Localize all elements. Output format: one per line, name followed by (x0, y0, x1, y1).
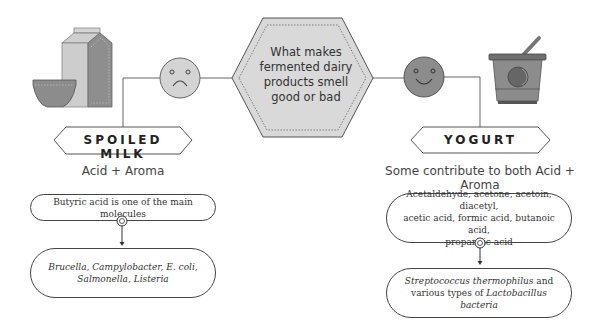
spoiled-molecules-box: Butyric acid is one of the main molecule… (30, 194, 216, 221)
sad-face-icon (160, 58, 200, 98)
center-question: What makes fermented dairy products smel… (255, 45, 357, 105)
spoiled-bacteria-line1: Brucella, Campylobacter, E. coli, (48, 262, 197, 272)
spoiled-molecules-text: Butyric acid is one of the main molecule… (43, 196, 203, 220)
yogurt-molecules-line3: propanoic acid (445, 237, 513, 247)
spoiled-bacteria-box: Brucella, Campylobacter, E. coli, Salmon… (30, 248, 216, 298)
yogurt-molecules-box: Acetaldehyde, acetone, acetoin, diacetyl… (386, 193, 572, 243)
yogurt-bacteria-box: Streptococcus thermophilus and various t… (386, 268, 572, 318)
yogurt-bacteria-plain1: and (533, 276, 553, 286)
yogurt-molecules-line1: Acetaldehyde, acetone, acetoin, diacetyl… (406, 189, 551, 211)
yogurt-molecules-line2: acetic acid, formic acid, butanoic acid, (403, 213, 555, 235)
right-flow-connector (478, 248, 483, 265)
yogurt-bacteria-italic1: Streptococcus thermophilus (405, 276, 534, 286)
yogurt-label: YOGURT (417, 133, 544, 147)
left-flow-connector (120, 226, 125, 246)
yogurt-cup-icon (489, 38, 546, 104)
yogurt-bacteria-plain2: various types of (411, 288, 486, 298)
spoiled-bacteria-line2: Salmonella, Listeria (77, 274, 168, 284)
spoiled-milk-subtitle: Acid + Aroma (63, 164, 183, 178)
happy-face-icon (404, 57, 444, 97)
spoiled-milk-label: SPOILED MILK (60, 133, 186, 161)
